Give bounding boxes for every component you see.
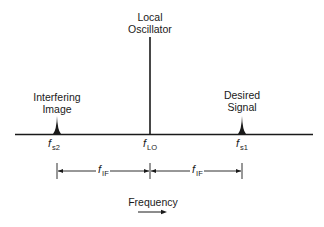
lo-label: Local Oscillator bbox=[120, 11, 180, 35]
fif-right-label: fIF bbox=[192, 163, 203, 178]
signal-label: Desired Signal bbox=[212, 89, 272, 113]
fs2-label: fs2 bbox=[48, 137, 60, 152]
image-peak bbox=[53, 116, 61, 134]
signal-peak bbox=[238, 116, 246, 134]
fs1-label: fs1 bbox=[236, 137, 248, 152]
fif-left-label: fIF bbox=[98, 163, 109, 178]
image-label: Interfering Image bbox=[27, 91, 87, 115]
if-dimension bbox=[57, 163, 242, 179]
flo-label: fLO bbox=[143, 137, 157, 152]
frequency-label: Frequency bbox=[120, 196, 186, 208]
